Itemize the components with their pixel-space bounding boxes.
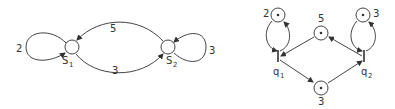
arc-p-top-right-to-q2	[351, 21, 362, 51]
edge-s2-to-s1	[77, 22, 163, 41]
edge-s1-to-s2	[76, 54, 163, 73]
arc-q1-to-p-bottom	[280, 60, 313, 82]
self-loop-s1	[26, 33, 66, 60]
state-s1	[65, 40, 79, 54]
state-subscript-s2: 2	[173, 61, 177, 69]
transition-label-q2: q	[361, 66, 367, 77]
transition-subscript-q1: 1	[280, 72, 284, 80]
state-s2	[161, 40, 175, 54]
place-label-top-left: 2	[263, 8, 269, 19]
transition-subscript-q2: 2	[368, 72, 372, 80]
arc-q2-to-p-top-mid	[329, 37, 362, 56]
weight-label-s2-loop: 3	[209, 45, 215, 56]
diagram-canvas: 2 5 3 3 S 1 S 2 2	[0, 0, 395, 109]
transition-label-q1: q	[273, 66, 279, 77]
arc-q1-to-p-top-left	[280, 22, 290, 51]
token-icon	[320, 32, 323, 35]
arc-p-top-left-to-q1	[266, 21, 277, 51]
state-label-s1: S	[62, 55, 68, 66]
state-label-s2: S	[166, 55, 172, 66]
weight-label-s1-loop: 2	[16, 43, 22, 54]
token-icon	[277, 14, 280, 17]
weight-label-s2-s1: 5	[110, 23, 116, 34]
token-icon	[320, 87, 323, 90]
markov-chain-diagram: 2 5 3 3 S 1 S 2	[16, 22, 215, 76]
arc-q2-to-p-top-right	[366, 22, 375, 51]
token-icon	[362, 14, 365, 17]
place-label-top-mid: 5	[318, 13, 324, 24]
place-label-top-right: 3	[373, 8, 379, 19]
state-subscript-s1: 1	[69, 61, 73, 69]
petri-net-diagram: 2 5 3 3 q 1 q 2	[263, 8, 379, 107]
arc-p-bottom-to-q2	[328, 61, 362, 83]
self-loop-s2	[174, 34, 206, 62]
weight-label-s1-s2: 3	[112, 65, 118, 76]
place-label-bottom: 3	[318, 96, 324, 107]
